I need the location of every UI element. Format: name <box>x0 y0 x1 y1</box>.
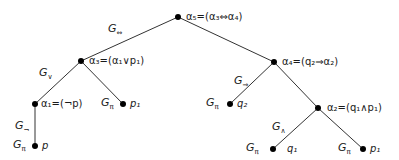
node-a2 <box>315 105 321 111</box>
node-q2 <box>227 101 233 107</box>
label-a4: α₄=(q₂⇒α₂) <box>282 57 338 67</box>
label-p1-right: p₁ <box>370 144 380 154</box>
rule-label-imp: G⇒ <box>234 75 248 89</box>
node-a4 <box>271 59 277 65</box>
label-p: p <box>42 141 48 151</box>
edge-a4-a2 <box>274 62 318 108</box>
edge-a5-a4 <box>178 17 274 62</box>
rule-label-pi-p: Gπ <box>13 139 26 153</box>
label-a5: α₅=(α₃⇔α₄) <box>186 12 242 22</box>
rule-label-iff: G⇔ <box>108 23 122 37</box>
node-a5 <box>175 14 181 20</box>
node-p1-left <box>120 101 126 107</box>
label-a3: α₃=(α₁∨p₁) <box>89 56 144 66</box>
label-a2: α₂=(q₁∧p₁) <box>327 103 382 113</box>
tree-edges <box>0 0 399 160</box>
label-p1-left: p₁ <box>130 99 140 109</box>
rule-label-not: G¬ <box>15 120 29 134</box>
rule-label-pi-p1-right: Gπ <box>338 142 351 156</box>
rule-label-pi-p1-left: Gπ <box>101 97 114 111</box>
rule-label-and: G∧ <box>272 121 286 135</box>
rule-label-pi-q2: Gπ <box>206 97 219 111</box>
label-q2: q₂ <box>237 99 247 109</box>
rule-label-or: G∨ <box>39 67 53 81</box>
node-p1-right <box>360 146 366 152</box>
node-a1 <box>32 101 38 107</box>
label-q1: q₁ <box>287 144 297 154</box>
node-q1 <box>270 146 276 152</box>
label-a1: α₁=(¬p) <box>41 99 83 109</box>
rule-label-pi-q1: Gπ <box>246 142 259 156</box>
node-p <box>32 143 38 149</box>
node-a3 <box>78 58 84 64</box>
parse-tree-diagram: α₅=(α₃⇔α₄) α₃=(α₁∨p₁) α₄=(q₂⇒α₂) α₁=(¬p)… <box>0 0 399 160</box>
